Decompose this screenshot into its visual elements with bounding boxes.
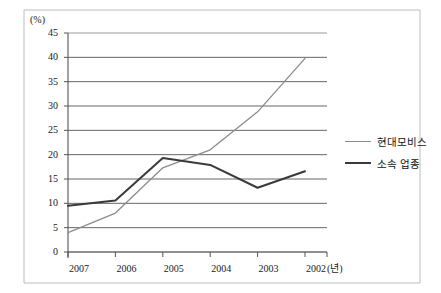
series-lines-group — [68, 58, 305, 232]
y-tick-marks-group — [64, 33, 68, 252]
y-tick-label-30: 30 — [36, 101, 58, 111]
x-tick-marks-group — [68, 252, 327, 257]
y-tick-label-25: 25 — [36, 125, 58, 135]
chart-figure: (%) 454035302520151050 20072006200520042… — [0, 0, 441, 293]
x-tick-label-2007: 2007 — [57, 264, 101, 274]
y-tick-label-35: 35 — [36, 77, 58, 87]
y-tick-label-20: 20 — [36, 150, 58, 160]
x-tick-label-2005: 2005 — [152, 264, 196, 274]
series-line-1 — [68, 158, 305, 206]
legend-line-swatch-hyundai-mobis — [345, 141, 371, 142]
legend-label-1: 소속 업종 — [377, 156, 420, 171]
y-tick-label-10: 10 — [36, 198, 58, 208]
x-axis-unit-label: (년) — [327, 264, 343, 274]
legend-label-0: 현대모비스 — [377, 134, 427, 149]
chart-legend: 현대모비스 소속 업종 — [345, 130, 427, 174]
series-line-0 — [68, 58, 305, 232]
y-tick-label-5: 5 — [36, 223, 58, 233]
x-tick-label-2006: 2006 — [104, 264, 148, 274]
y-tick-label-0: 0 — [36, 247, 58, 257]
gridlines-group — [68, 33, 327, 252]
legend-line-swatch-industry — [345, 162, 371, 164]
y-tick-label-15: 15 — [36, 174, 58, 184]
y-tick-label-45: 45 — [36, 28, 58, 38]
x-tick-label-2003: 2003 — [247, 264, 291, 274]
x-tick-label-2004: 2004 — [199, 264, 243, 274]
y-tick-label-40: 40 — [36, 52, 58, 62]
legend-item-0: 현대모비스 — [345, 130, 427, 152]
legend-item-1: 소속 업종 — [345, 152, 427, 174]
